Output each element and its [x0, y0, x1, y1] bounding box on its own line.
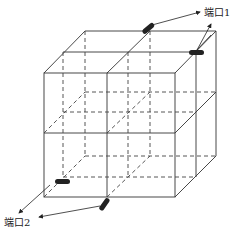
cube-diagram	[0, 0, 235, 238]
arrow-port2-b	[39, 206, 100, 217]
port1-label: 端口1	[204, 4, 230, 19]
port-2a	[55, 179, 70, 184]
ports	[55, 22, 204, 211]
port2-label: 端口2	[4, 214, 30, 229]
port-2b	[98, 197, 110, 211]
arrow-port2-a	[19, 185, 50, 213]
arrow-port1-a	[152, 12, 200, 25]
